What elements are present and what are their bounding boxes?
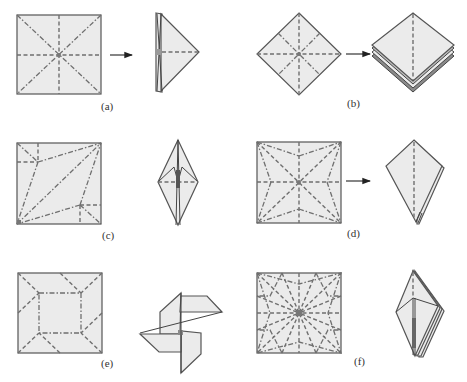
- panel-label-b: (b): [347, 97, 360, 109]
- panel-c-crease-pattern: [17, 143, 101, 224]
- panel-e-crease-pattern: [18, 273, 102, 353]
- figure-caption-cutoff: [0, 376, 467, 382]
- panel-label-e: (e): [101, 357, 113, 369]
- panel-b-crease-pattern: [257, 13, 341, 95]
- panel-f-crease-pattern: [257, 273, 341, 353]
- panel-label-d: (d): [347, 227, 360, 239]
- panel-a-folded-result: [156, 13, 199, 92]
- panel-c-folded-result: [158, 140, 198, 225]
- panel-label-f: (f): [354, 355, 365, 367]
- panel-e-folded-result: [140, 293, 222, 373]
- panel-label-c: (c): [102, 229, 114, 241]
- panel-a-crease-pattern: [17, 15, 101, 94]
- figure-canvas: .paper { fill: #ebebeb; stroke: #555; st…: [0, 0, 467, 382]
- panel-d-crease-pattern: [257, 142, 341, 223]
- origami-figure: .paper { fill: #ebebeb; stroke: #555; st…: [0, 0, 467, 382]
- panel-b-folded-result: [372, 13, 454, 92]
- panel-d-folded-result: [386, 140, 444, 224]
- panel-label-a: (a): [101, 100, 113, 112]
- panel-f-folded-result: [396, 271, 444, 357]
